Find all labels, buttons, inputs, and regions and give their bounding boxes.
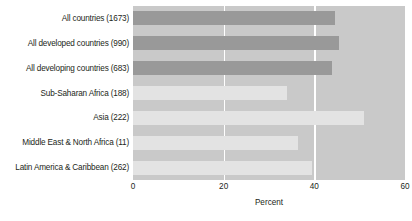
category-label: Latin America & Caribbean (262)	[0, 163, 129, 172]
bar	[133, 11, 335, 25]
category-label: All countries (1673)	[0, 14, 129, 23]
category-label: All developing countries (683)	[0, 64, 129, 73]
bar	[133, 36, 339, 50]
category-label: Sub-Saharan Africa (188)	[0, 89, 129, 98]
x-tick-label: 0	[131, 182, 136, 192]
gridline-40	[314, 6, 315, 180]
x-tick-label: 60	[400, 182, 409, 192]
x-axis-title: Percent	[133, 198, 405, 208]
plot-area	[133, 6, 405, 180]
bar	[133, 136, 298, 150]
x-tick-label: 20	[219, 182, 228, 192]
x-tick-label: 40	[310, 182, 319, 192]
category-label: All developed countries (990)	[0, 39, 129, 48]
bar	[133, 61, 332, 75]
bar-chart: All countries (1673)All developed countr…	[0, 0, 412, 221]
category-label: Asia (222)	[0, 113, 129, 122]
bar	[133, 111, 364, 125]
bar	[133, 86, 287, 100]
bar	[133, 161, 312, 175]
category-label: Middle East & North Africa (11)	[0, 138, 129, 147]
value-axis: 0204060	[0, 182, 412, 196]
category-axis: All countries (1673)All developed countr…	[0, 6, 129, 180]
